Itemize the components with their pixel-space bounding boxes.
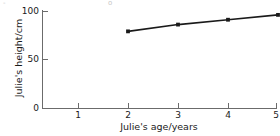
chart-figure: - o 100 50 0 1 2 3 4 5 Julie's height/cm…	[0, 0, 280, 136]
data-point-marker	[176, 23, 180, 27]
data-point-marker	[126, 29, 130, 33]
series-line-julie-height	[128, 15, 278, 31]
series-markers	[126, 13, 280, 33]
data-point-marker	[226, 18, 230, 22]
data-point-marker	[276, 13, 280, 17]
plot-area	[0, 0, 280, 136]
